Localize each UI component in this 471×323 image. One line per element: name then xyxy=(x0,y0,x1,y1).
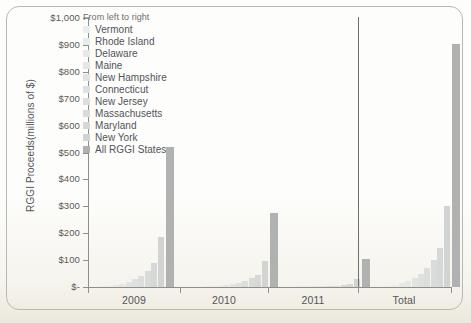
y-axis-tick xyxy=(83,206,89,207)
bar xyxy=(145,271,151,287)
bar xyxy=(399,283,405,287)
bar xyxy=(158,237,164,287)
y-axis-tick xyxy=(83,179,89,180)
legend-swatch-icon xyxy=(83,62,90,69)
bar xyxy=(328,286,334,287)
y-axis-tick-label: $800 xyxy=(16,67,80,77)
bar xyxy=(437,248,443,287)
x-axis-category-label: Total xyxy=(359,294,449,306)
bar xyxy=(315,286,321,287)
bar xyxy=(262,261,268,287)
bar xyxy=(210,286,216,287)
x-axis-category-label: 2009 xyxy=(89,294,179,306)
y-axis-tick-label-wrap: $300 xyxy=(12,201,80,211)
x-axis-tick xyxy=(88,287,89,293)
bar xyxy=(270,213,278,287)
y-axis-tick-label-wrap: $500 xyxy=(12,148,80,158)
bar xyxy=(166,147,174,287)
x-axis-tick xyxy=(358,287,359,293)
bar xyxy=(100,286,106,287)
y-axis-tick-label-wrap: $800 xyxy=(12,67,80,77)
x-axis-tick xyxy=(268,287,269,293)
bar xyxy=(334,286,340,287)
bar xyxy=(431,260,437,287)
bar xyxy=(296,286,302,287)
y-axis-tick-label: $100 xyxy=(16,255,80,265)
legend-swatch-icon xyxy=(83,86,90,93)
bar xyxy=(322,286,328,287)
bar xyxy=(249,278,255,287)
y-axis-tick xyxy=(83,260,89,261)
bar-chart: RGGI Proceeds(millions of $) $1,000$900$… xyxy=(0,0,471,323)
y-axis-tick-label-wrap: $900 xyxy=(12,40,80,50)
legend-swatch-icon xyxy=(83,98,90,105)
y-axis-tick-label-wrap: $600 xyxy=(12,121,80,131)
y-axis-tick-label-wrap: $- xyxy=(12,282,80,292)
bar-group-bars xyxy=(204,18,278,287)
y-axis-tick-label: $- xyxy=(16,282,80,292)
bar xyxy=(217,286,223,287)
bar xyxy=(405,281,411,287)
legend-swatch-icon xyxy=(83,122,90,129)
total-separator-line xyxy=(358,17,359,289)
y-axis-tick-label: $900 xyxy=(16,40,80,50)
y-axis-tick-label: $1,000 xyxy=(16,13,80,23)
bar-group-bars xyxy=(100,18,174,287)
bar xyxy=(132,279,138,287)
bar-group-bars xyxy=(296,18,370,287)
legend-swatch-icon xyxy=(83,50,90,57)
bar xyxy=(302,286,308,287)
y-axis-tick-label: $600 xyxy=(16,121,80,131)
y-axis-tick xyxy=(83,233,89,234)
y-axis-tick-label-wrap: $200 xyxy=(12,228,80,238)
legend-swatch-icon xyxy=(83,146,90,153)
bar-group-bars xyxy=(386,18,460,287)
legend-swatch-icon xyxy=(83,26,90,33)
y-axis-tick-label: $400 xyxy=(16,174,80,184)
bar xyxy=(151,263,157,287)
bar xyxy=(223,285,229,287)
bar xyxy=(106,286,112,287)
y-axis-tick-label-wrap: $700 xyxy=(12,94,80,104)
bar xyxy=(204,286,210,287)
x-axis-category-label: 2011 xyxy=(268,294,358,306)
legend-swatch-icon xyxy=(83,74,90,81)
legend-swatch-icon xyxy=(83,110,90,117)
bar xyxy=(230,284,236,287)
y-axis-tick-label: $300 xyxy=(16,201,80,211)
y-axis-tick-label: $700 xyxy=(16,94,80,104)
bar xyxy=(386,286,392,287)
x-axis-tick xyxy=(180,287,181,293)
y-axis-tick-label: $200 xyxy=(16,228,80,238)
y-axis-tick-label: $500 xyxy=(16,148,80,158)
bar xyxy=(418,274,424,287)
y-axis-tick-label-wrap: $1,000 xyxy=(12,13,80,23)
bar xyxy=(412,278,418,287)
x-axis-tick xyxy=(451,287,452,293)
legend-swatch-icon xyxy=(83,38,90,45)
bar xyxy=(452,44,460,287)
bar xyxy=(341,285,347,287)
bar xyxy=(392,285,398,287)
bar xyxy=(242,281,248,287)
legend-swatch-icon xyxy=(83,134,90,141)
bar xyxy=(424,268,430,287)
bar xyxy=(347,284,353,287)
bar xyxy=(113,285,119,287)
y-axis-tick-label-wrap: $400 xyxy=(12,174,80,184)
bar xyxy=(138,276,144,287)
bar xyxy=(444,206,450,287)
bar xyxy=(362,259,370,287)
x-axis-line xyxy=(88,287,451,288)
bar xyxy=(119,284,125,287)
y-axis-tick-label-wrap: $100 xyxy=(12,255,80,265)
bar xyxy=(309,286,315,287)
bar xyxy=(236,283,242,287)
bar xyxy=(255,275,261,287)
x-axis-category-label: 2010 xyxy=(179,294,269,306)
bar xyxy=(126,282,132,287)
